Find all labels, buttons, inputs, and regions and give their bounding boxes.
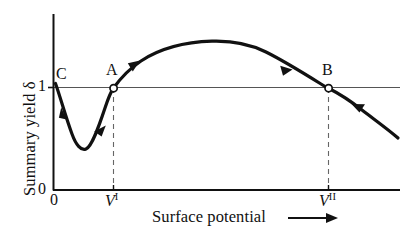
point-label-c: C xyxy=(56,66,67,82)
point-label-b: B xyxy=(322,62,333,78)
y-tick-label-1: 1 xyxy=(38,78,46,94)
y-axis-title: Summary yield δ xyxy=(22,0,44,196)
plot-canvas xyxy=(0,0,414,239)
yield-curve xyxy=(56,41,399,149)
x-tick-label-0: 0 xyxy=(50,192,58,208)
x-tick-label-v1-base: V xyxy=(105,192,115,209)
x-tick-label-v2-base: V xyxy=(319,192,329,209)
point-label-a: A xyxy=(106,62,118,78)
marker-point-b xyxy=(325,85,332,92)
x-tick-label-v2-superscript: II xyxy=(329,191,336,202)
figure-root: Summary yield δ Surface potential 1 0 0 … xyxy=(0,0,414,239)
x-axis-title: Surface potential xyxy=(152,209,266,226)
y-tick-label-0: 0 xyxy=(38,181,46,197)
x-tick-label-v2: VII xyxy=(319,192,336,209)
marker-point-a xyxy=(110,85,117,92)
arrow-right-icon xyxy=(288,210,340,226)
x-tick-label-v1: VI xyxy=(105,192,118,209)
x-tick-label-v1-superscript: I xyxy=(115,191,119,202)
